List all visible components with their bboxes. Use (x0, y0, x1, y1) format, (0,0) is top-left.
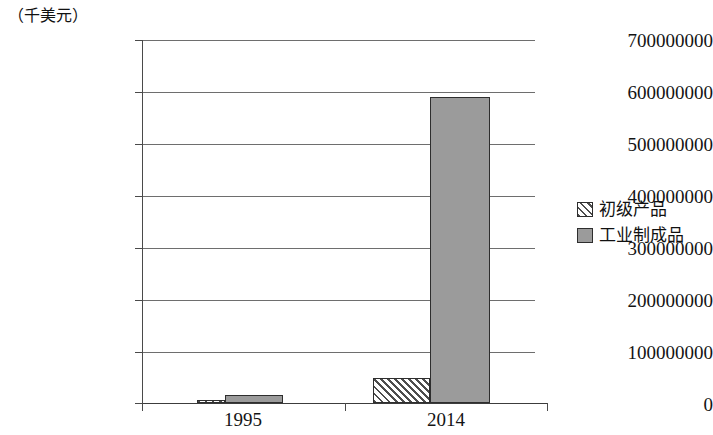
legend-label-industrial-manufactures: 工业制成品 (599, 227, 684, 244)
x-tick-label-2014: 2014 (386, 409, 506, 431)
plot-area (142, 40, 535, 403)
y-tick-label-0: 0 (581, 395, 713, 414)
bar-2014-industrial-manufactures (430, 97, 490, 403)
x-tick-mark-middle (345, 403, 346, 411)
bar-1995-industrial-manufactures (225, 395, 283, 403)
y-tick-label-600000000: 600000000 (581, 83, 713, 102)
y-tick-label-700000000: 700000000 (581, 31, 713, 50)
legend-swatch-hatch-icon (577, 202, 593, 217)
legend-label-primary-products: 初级产品 (599, 201, 667, 218)
y-axis-unit-caption: （千美元） (8, 2, 88, 26)
legend-swatch-solid-icon (577, 228, 593, 243)
x-tick-mark-start (142, 403, 143, 411)
gridline-600000000 (142, 92, 535, 93)
y-tick-label-200000000: 200000000 (581, 291, 713, 310)
x-tick-mark-end (547, 403, 548, 411)
legend-item-primary-products: 初级产品 (577, 196, 711, 222)
gridline-700000000 (142, 40, 535, 41)
x-tick-label-1995: 1995 (183, 409, 303, 431)
y-tick-label-100000000: 100000000 (581, 343, 713, 362)
chart-legend: 初级产品 工业制成品 (577, 196, 711, 248)
y-tick-label-500000000: 500000000 (581, 135, 713, 154)
y-axis-line (142, 40, 143, 404)
bar-2014-primary-products (373, 378, 430, 403)
legend-item-industrial-manufactures: 工业制成品 (577, 222, 711, 248)
bar-chart: （千美元） 700000000 600000000 500000000 4000… (0, 0, 713, 435)
